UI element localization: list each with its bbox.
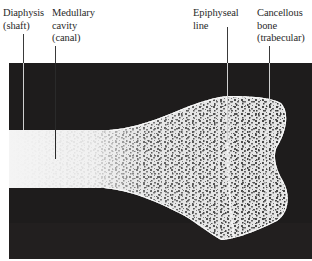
label-diaphysis-line-1: Diaphysis xyxy=(3,7,44,20)
label-medullary-cavity: Medullary cavity (canal) xyxy=(52,7,95,45)
leader-line-medullary xyxy=(55,46,56,63)
leader-line-epiphyseal-photo xyxy=(227,63,228,141)
label-medullary-line-2: cavity xyxy=(52,20,95,33)
leader-line-cancellous xyxy=(269,46,270,63)
leader-line-diaphysis-photo xyxy=(23,63,24,130)
label-cancellous-line-2: bone xyxy=(257,20,305,33)
label-medullary-line-3: (canal) xyxy=(52,32,95,45)
label-epiphyseal-line-1: Epiphyseal xyxy=(193,7,239,20)
leader-line-diaphysis xyxy=(23,34,24,63)
label-cancellous-line-3: (trabecular) xyxy=(257,32,305,45)
label-diaphysis: Diaphysis (shaft) xyxy=(3,7,44,32)
label-diaphysis-line-2: (shaft) xyxy=(3,20,44,33)
leader-line-medullary-photo xyxy=(55,63,56,159)
label-epiphyseal-line: Epiphyseal line xyxy=(193,7,239,32)
label-medullary-line-1: Medullary xyxy=(52,7,95,20)
leader-line-epiphyseal xyxy=(227,27,228,63)
label-cancellous-bone: Cancellous bone (trabecular) xyxy=(257,7,305,45)
label-cancellous-line-1: Cancellous xyxy=(257,7,305,20)
leader-line-cancellous-photo xyxy=(269,63,270,102)
label-epiphyseal-line-2: line xyxy=(193,20,239,33)
